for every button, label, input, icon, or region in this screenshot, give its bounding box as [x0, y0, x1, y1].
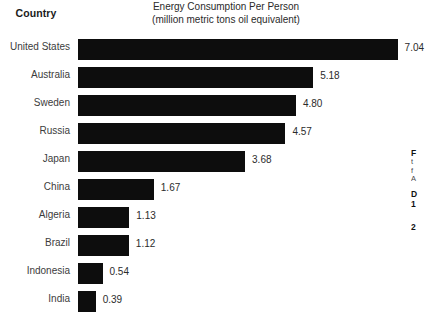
bar-category-label: Japan: [0, 153, 70, 164]
bar-category-label: India: [0, 293, 70, 304]
bar-track: 1.12: [78, 232, 432, 260]
bar-category-label: Sweden: [0, 97, 70, 108]
side-note-item-1: 1: [411, 199, 432, 209]
bar-track: 1.67: [78, 176, 432, 204]
side-note-item-2: 2: [411, 222, 432, 232]
side-note-clipped: F t f A D 1 2: [411, 148, 432, 232]
bar-row: India0.39: [0, 288, 432, 315]
chart-title-line-1: Energy Consumption Per Person: [78, 1, 374, 14]
bar-value-label: 1.12: [136, 238, 155, 249]
bar-category-label: Australia: [0, 69, 70, 80]
bar-category-label: Indonesia: [0, 265, 70, 276]
bar-row: Brazil1.12: [0, 232, 432, 260]
side-note-line-1: t: [411, 158, 432, 167]
bar: [78, 95, 296, 116]
side-note-heading-2: D: [411, 189, 432, 199]
bar: [78, 151, 245, 172]
plot-area: United States7.04Australia5.18Sweden4.80…: [0, 36, 432, 315]
bar-row: Australia5.18: [0, 64, 432, 92]
bar: [78, 207, 129, 228]
bar-value-label: 1.13: [136, 210, 155, 221]
chart-header: Country Energy Consumption Per Person (m…: [0, 0, 432, 36]
bar: [78, 291, 96, 312]
bar-row: Japan3.68: [0, 148, 432, 176]
bar-value-label: 0.39: [103, 294, 122, 305]
bar-row: Indonesia0.54: [0, 260, 432, 288]
bar-row: United States7.04: [0, 36, 432, 64]
side-note-gap: [411, 209, 432, 222]
bar-category-label: Algeria: [0, 209, 70, 220]
bar-value-label: 5.18: [320, 70, 339, 81]
bar-category-label: United States: [0, 41, 70, 52]
chart-title: Energy Consumption Per Person (million m…: [78, 1, 374, 26]
bar-track: 4.80: [78, 92, 432, 120]
bar-track: 4.57: [78, 120, 432, 148]
bar-track: 7.04: [78, 36, 432, 64]
bar-row: Algeria1.13: [0, 204, 432, 232]
bar-track: 0.54: [78, 260, 432, 288]
bar-category-label: China: [0, 181, 70, 192]
bar: [78, 67, 313, 88]
bar: [78, 179, 154, 200]
bar: [78, 39, 398, 60]
bar-row: China1.67: [0, 176, 432, 204]
bar-track: 1.13: [78, 204, 432, 232]
bar-row: Russia4.57: [0, 120, 432, 148]
chart-title-line-2: (million metric tons oil equivalent): [78, 14, 374, 27]
country-column-header: Country: [0, 7, 72, 19]
bar: [78, 263, 103, 284]
bar: [78, 123, 285, 144]
energy-consumption-bar-chart: Country Energy Consumption Per Person (m…: [0, 0, 432, 315]
bar-value-label: 7.04: [405, 42, 424, 53]
bar-value-label: 0.54: [110, 266, 129, 277]
bar-track: 3.68: [78, 148, 432, 176]
bar-row: Sweden4.80: [0, 92, 432, 120]
bar-category-label: Brazil: [0, 237, 70, 248]
bar-track: 5.18: [78, 64, 432, 92]
bar-category-label: Russia: [0, 125, 70, 136]
bar-value-label: 3.68: [252, 154, 271, 165]
side-note-line-3: A: [411, 175, 432, 184]
side-note-heading-1: F: [411, 148, 432, 158]
bar-track: 0.39: [78, 288, 432, 315]
bar-value-label: 4.80: [303, 98, 322, 109]
bar: [78, 235, 129, 256]
bar-value-label: 4.57: [292, 126, 311, 137]
bar-value-label: 1.67: [161, 182, 180, 193]
